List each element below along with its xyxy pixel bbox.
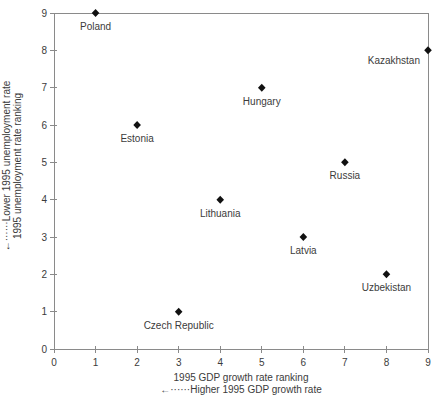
y-tick-label: 2	[41, 269, 47, 280]
data-point-label: Latvia	[290, 245, 317, 256]
x-axis-arrow-annotation: ←······Higher 1995 GDP growth rate	[160, 384, 322, 395]
data-point-label: Uzbekistan	[362, 282, 411, 293]
data-point-marker	[383, 270, 391, 278]
data-point-marker	[300, 233, 308, 241]
y-tick-label: 4	[41, 194, 47, 205]
data-point-marker	[216, 196, 224, 204]
data-point-label: Kazakhstan	[368, 55, 420, 66]
y-tick-label: 6	[41, 120, 47, 131]
y-tick-label: 7	[41, 82, 47, 93]
scatter-chart: 01234567890123456789 PolandEstoniaCzech …	[0, 0, 442, 405]
y-axis-arrow-annotation: ←······Lower 1995 unemployment rate	[1, 80, 12, 251]
data-point-label: Hungary	[243, 96, 281, 107]
x-tick-label: 8	[384, 357, 390, 368]
data-point-label: Czech Republic	[144, 320, 214, 331]
x-tick-label: 3	[176, 357, 182, 368]
data-point-marker	[424, 46, 432, 54]
y-tick-label: 0	[41, 344, 47, 355]
x-axis-title: 1995 GDP growth rate ranking	[174, 372, 309, 383]
data-point-marker	[258, 84, 266, 92]
scatter-figure: 01234567890123456789 PolandEstoniaCzech …	[0, 0, 442, 405]
y-tick-label: 8	[41, 45, 47, 56]
data-point-marker	[341, 158, 349, 166]
data-point-label: Poland	[80, 21, 111, 32]
y-tick-label: 9	[41, 8, 47, 19]
points-layer: PolandEstoniaCzech RepublicLithuaniaHung…	[80, 9, 432, 331]
data-point-label: Lithuania	[200, 208, 241, 219]
x-tick-label: 7	[342, 357, 348, 368]
x-tick-label: 4	[217, 357, 223, 368]
data-point-label: Russia	[330, 170, 361, 181]
data-point-marker	[92, 9, 100, 17]
y-tick-label: 5	[41, 157, 47, 168]
data-point-label: Estonia	[120, 133, 154, 144]
x-tick-label: 1	[93, 357, 99, 368]
data-point-marker	[133, 121, 141, 129]
x-tick-label: 0	[51, 357, 57, 368]
data-point-marker	[175, 308, 183, 316]
y-tick-label: 3	[41, 232, 47, 243]
y-tick-label: 1	[41, 306, 47, 317]
y-axis-title: 1995 unemployment rate ranking	[12, 93, 23, 239]
x-tick-label: 9	[425, 357, 431, 368]
x-tick-label: 6	[301, 357, 307, 368]
x-tick-label: 5	[259, 357, 265, 368]
x-tick-label: 2	[134, 357, 140, 368]
